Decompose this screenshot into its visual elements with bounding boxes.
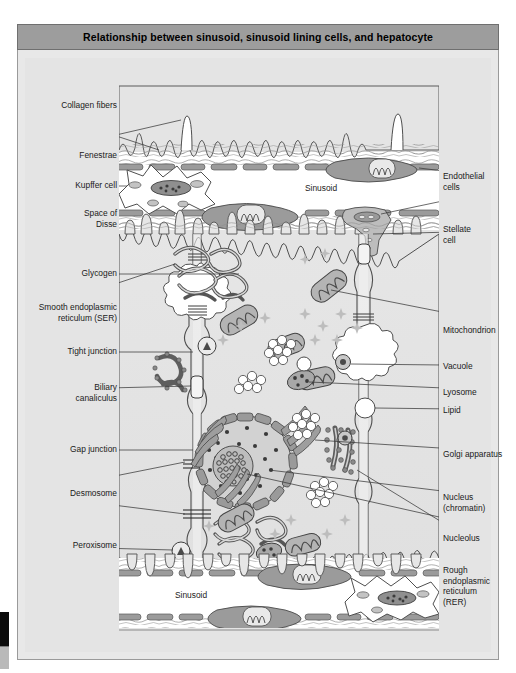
label-lyosome: Lyosome [443,387,503,398]
label-nucleus-chromatin: Nucleus (chromatin) [443,492,503,513]
gap-junction-right [358,244,370,264]
label-vacuole: Vacuole [443,361,503,372]
hepatocyte-cytoplasm [119,228,439,578]
label-space-of-disse: Space of Disse [25,208,117,229]
label-mitochondrion: Mitochondrion [443,325,509,336]
label-endothelial-cells: Endothelial cells [443,171,493,192]
lipid-droplet-1 [355,398,375,418]
lipid-droplet-2 [297,357,311,371]
sinusoid-label-bottom: Sinusoid [175,590,207,600]
vacuole-1 [336,355,351,370]
label-rer: Rough endoplasmic reticulum (RER) [443,565,505,607]
label-tight-junction: Tight junction [25,346,117,357]
label-nucleolus: Nucleolus [443,533,503,544]
kupffer-nucleus [151,181,191,196]
label-desmosome: Desmosome [25,488,117,499]
label-peroxisome: Peroxisome [25,540,117,551]
label-stellate-cell: Stellate cell [443,224,493,245]
label-glycogen: Glycogen [25,268,117,279]
screenshot-root: Relationship between sinusoid, sinusoid … [0,0,516,673]
edge-artifact-gray [0,646,9,669]
label-ser: Smooth endoplasmic reticulum (SER) [25,302,117,323]
gap-junction-left [191,376,203,398]
vacuole-2 [338,431,352,445]
label-golgi-apparatus: Golgi apparatus [443,449,513,460]
diagram-artwork: Sinusoid [119,58,439,652]
label-biliary-canaliculus: Biliary canaliculus [25,382,117,403]
sinusoid-label-top: Sinusoid [305,183,337,193]
diagram-plate: Sinusoid [25,58,491,652]
label-lipid: Lipid [443,405,503,416]
label-collagen-fibers: Collagen fibers [25,100,117,111]
label-kupffer-cell: Kupffer cell [25,180,117,191]
kupffer-nucleus-bottom [378,591,416,605]
peroxisome-1 [198,337,216,355]
diagram-title-bar: Relationship between sinusoid, sinusoid … [17,24,499,50]
hepatocyte-sinusoid-illustration: Sinusoid [119,58,439,652]
label-gap-junction: Gap junction [25,444,117,455]
lower-hepatocyte-band [119,628,439,652]
space-of-disse-band [119,221,439,231]
label-fenestrae: Fenestrae [25,150,117,161]
page-title: Relationship between sinusoid, sinusoid … [83,31,433,43]
edge-artifact-black [0,612,9,646]
